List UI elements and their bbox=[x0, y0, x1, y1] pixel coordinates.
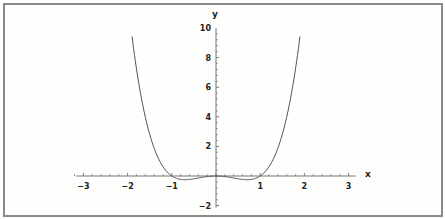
y-axis-label: y bbox=[212, 9, 218, 19]
y-tick-label: 4 bbox=[205, 113, 211, 122]
x-tick-label: −2 bbox=[121, 182, 133, 191]
tick-labels: −3−2−1123108642−2 bbox=[77, 24, 351, 211]
y-tick-label: 8 bbox=[205, 54, 211, 63]
x-axis-label: x bbox=[365, 169, 371, 179]
y-tick-label: 10 bbox=[200, 24, 212, 33]
axes bbox=[76, 28, 355, 208]
y-tick-label: 6 bbox=[205, 83, 211, 92]
plot-area: −3−2−1123108642−2 x y bbox=[0, 0, 445, 219]
x-tick-label: −1 bbox=[166, 182, 179, 191]
x-tick-label: −3 bbox=[77, 182, 89, 191]
x-tick-label: 1 bbox=[257, 182, 263, 191]
x-tick-label: 2 bbox=[302, 182, 308, 191]
y-tick-label: 2 bbox=[205, 142, 211, 151]
axis-ticks bbox=[75, 34, 349, 206]
y-tick-label: −2 bbox=[199, 202, 211, 211]
x-tick-label: 3 bbox=[346, 182, 352, 191]
